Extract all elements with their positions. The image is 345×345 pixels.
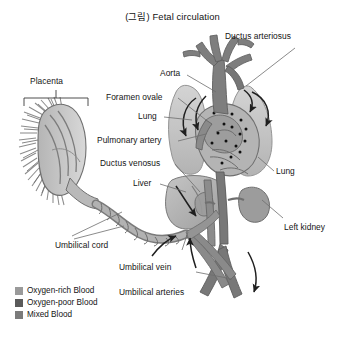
leader-ductus-arteriosus: [246, 48, 295, 86]
leader-umbilical-cord-1: [72, 212, 122, 236]
kidney-left-shape: [239, 187, 270, 222]
legend-swatch-oxygen-rich: [15, 287, 23, 295]
legend-item: Oxygen-rich Blood: [15, 285, 98, 296]
label-umbilical-cord: Umbilical cord: [55, 240, 108, 250]
placenta-structure: [19, 97, 98, 209]
label-liver: Liver: [133, 178, 151, 188]
legend-label-oxygen-poor: Oxygen-poor Blood: [27, 298, 98, 307]
diagram-canvas: (그림) Fetal circulation: [0, 0, 345, 345]
ductus-arteriosus-vessel: [225, 66, 244, 90]
label-placenta: Placenta: [30, 76, 63, 86]
label-lung-left: Lung: [138, 111, 157, 121]
placenta-body: [38, 104, 86, 195]
label-ductus-venosus: Ductus venosus: [100, 158, 160, 168]
label-umbilical-vein: Umbilical vein: [119, 262, 171, 272]
label-pulmonary-artery: Pulmonary artery: [97, 135, 162, 145]
label-umbilical-arteries: Umbilical arteries: [119, 287, 184, 297]
legend-swatch-mixed: [15, 311, 23, 319]
ascending-aorta: [213, 60, 229, 114]
legend-item: Mixed Blood: [15, 309, 98, 320]
leader-umbilical-cord-2: [74, 226, 124, 239]
legend-label-oxygen-rich: Oxygen-rich Blood: [27, 286, 94, 295]
label-lung-right: Lung: [276, 166, 295, 176]
renal-artery-left: [228, 199, 244, 201]
label-left-kidney: Left kidney: [284, 222, 325, 232]
label-aorta: Aorta: [160, 68, 180, 78]
label-ductus-arteriosus: Ductus arteriosus: [225, 31, 291, 41]
flow-arrow-iliac: [248, 252, 256, 292]
label-foramen-ovale: Foramen ovale: [106, 92, 163, 102]
legend-swatch-oxygen-poor: [15, 299, 23, 307]
legend: Oxygen-rich Blood Oxygen-poor Blood Mixe…: [15, 285, 98, 321]
legend-item: Oxygen-poor Blood: [15, 297, 98, 308]
legend-label-mixed: Mixed Blood: [27, 310, 72, 319]
